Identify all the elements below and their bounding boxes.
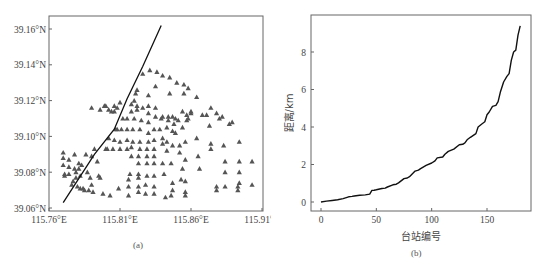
- station-triangle-icon: [125, 146, 130, 151]
- station-triangle-icon: [151, 173, 156, 178]
- station-triangle-icon: [186, 85, 191, 90]
- station-triangle-icon: [184, 112, 189, 117]
- y-tick-label: 0: [301, 198, 306, 208]
- station-triangle-icon: [222, 159, 227, 164]
- station-triangle-icon: [95, 159, 100, 164]
- y-tick-label: 6: [301, 85, 306, 95]
- station-triangle-icon: [151, 127, 156, 132]
- station-triangle-icon: [117, 139, 122, 144]
- station-triangle-icon: [214, 111, 219, 116]
- station-triangle-icon: [144, 161, 149, 166]
- station-triangle-icon: [129, 145, 134, 150]
- station-triangle-icon: [178, 177, 183, 182]
- station-triangle-icon: [151, 161, 156, 166]
- plot-frame: [311, 15, 531, 211]
- station-triangle-icon: [180, 109, 185, 114]
- station-triangle-icon: [161, 171, 166, 176]
- station-triangle-icon: [88, 175, 93, 180]
- station-triangle-icon: [117, 146, 122, 151]
- x-tick-label: 100: [425, 215, 440, 225]
- station-triangle-icon: [119, 127, 124, 132]
- station-triangle-icon: [183, 157, 188, 162]
- station-triangle-icon: [136, 189, 141, 194]
- station-triangle-icon: [137, 139, 142, 144]
- station-triangle-icon: [116, 186, 121, 191]
- station-triangle-icon: [72, 166, 77, 171]
- caption-b: (b): [411, 248, 422, 258]
- station-triangle-icon: [140, 71, 145, 76]
- distance-line-plot: 02468050100150台站编号距离/km: [271, 0, 542, 271]
- y-tick-label: 39.12°N: [14, 96, 46, 106]
- station-triangle-icon: [180, 125, 185, 130]
- station-triangle-icon: [147, 68, 152, 73]
- station-triangle-icon: [167, 91, 172, 96]
- station-triangle-icon: [181, 82, 186, 87]
- station-triangle-icon: [153, 114, 158, 119]
- station-triangle-icon: [137, 146, 142, 151]
- station-triangle-icon: [66, 164, 71, 169]
- station-triangle-icon: [194, 94, 199, 99]
- station-triangle-icon: [107, 193, 112, 198]
- chart-panel-a: 39.06°N39.08°N39.10°N39.12°N39.14°N39.16…: [0, 0, 271, 271]
- x-tick-label: 115.86°E: [173, 215, 209, 225]
- station-triangle-icon: [208, 146, 213, 151]
- station-triangle-icon: [207, 123, 212, 128]
- station-triangle-icon: [170, 180, 175, 185]
- station-triangle-icon: [146, 130, 151, 135]
- x-tick-label: 115.91°E: [244, 215, 271, 225]
- x-tick-label: 150: [480, 215, 495, 225]
- x-tick-label: 50: [372, 215, 382, 225]
- station-triangle-icon: [167, 75, 172, 80]
- y-tick-label: 8: [301, 48, 306, 58]
- station-triangle-icon: [90, 189, 95, 194]
- y-tick-label: 39.06°N: [14, 204, 46, 214]
- station-triangle-icon: [249, 159, 254, 164]
- station-triangle-icon: [136, 161, 141, 166]
- station-triangle-icon: [166, 114, 171, 119]
- station-triangle-icon: [89, 105, 94, 110]
- station-triangle-icon: [132, 98, 137, 103]
- station-triangle-icon: [110, 146, 115, 151]
- y-tick-label: 39.14°N: [14, 60, 46, 70]
- station-triangle-icon: [86, 188, 91, 193]
- station-triangle-icon: [200, 112, 205, 117]
- station-triangle-icon: [100, 191, 105, 196]
- station-triangle-icon: [120, 116, 125, 121]
- station-triangle-icon: [157, 127, 162, 132]
- station-triangle-icon: [183, 179, 188, 184]
- station-triangle-icon: [237, 180, 242, 185]
- station-triangle-icon: [125, 137, 130, 142]
- station-triangle-icon: [196, 153, 201, 158]
- station-triangle-icon: [220, 114, 225, 119]
- station-triangle-icon: [160, 161, 165, 166]
- station-triangle-icon: [171, 121, 176, 126]
- station-triangle-icon: [153, 84, 158, 89]
- station-triangle-icon: [61, 162, 66, 167]
- station-triangle-icon: [136, 171, 141, 176]
- y-tick-label: 2: [301, 160, 306, 170]
- station-triangle-icon: [249, 182, 254, 187]
- station-triangle-icon: [197, 166, 202, 171]
- station-triangle-icon: [136, 153, 141, 158]
- station-triangle-icon: [146, 103, 151, 108]
- station-triangle-icon: [208, 105, 213, 110]
- station-triangle-icon: [146, 119, 151, 124]
- station-triangle-icon: [151, 191, 156, 196]
- station-triangle-icon: [208, 141, 213, 146]
- station-triangle-icon: [66, 157, 71, 162]
- station-triangle-icon: [164, 139, 169, 144]
- station-triangle-icon: [134, 87, 139, 92]
- station-triangle-icon: [144, 146, 149, 151]
- station-triangle-icon: [151, 146, 156, 151]
- station-triangle-icon: [221, 143, 226, 148]
- distance-curve: [321, 26, 520, 202]
- station-triangle-icon: [183, 139, 188, 144]
- station-map-plot: 39.06°N39.08°N39.10°N39.12°N39.14°N39.16…: [0, 0, 271, 271]
- station-triangle-icon: [85, 170, 90, 175]
- station-triangle-icon: [169, 161, 174, 166]
- station-triangle-icon: [134, 103, 139, 108]
- chart-panel-b: 02468050100150台站编号距离/km (b): [271, 0, 542, 271]
- station-triangle-icon: [214, 184, 219, 189]
- station-triangle-icon: [146, 139, 151, 144]
- station-triangle-icon: [230, 119, 235, 124]
